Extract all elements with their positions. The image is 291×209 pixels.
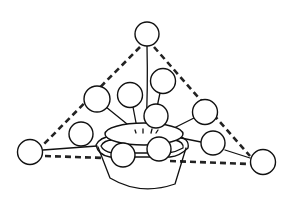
bloom-bowl-right xyxy=(147,137,171,161)
guide-base-left xyxy=(45,156,105,158)
bloom-center xyxy=(144,104,168,128)
bowl-foliage-mound xyxy=(105,123,183,145)
bloom-far-left xyxy=(18,140,43,165)
arrangement-diagram xyxy=(0,0,291,209)
bloom-right-lower xyxy=(201,131,225,155)
bloom-far-right xyxy=(251,150,276,175)
bloom-upper-right xyxy=(151,69,176,94)
bloom-bowl-left xyxy=(111,143,135,167)
bloom-left-upper xyxy=(84,86,110,112)
bowl xyxy=(96,123,188,189)
bloom-right xyxy=(193,100,218,125)
bloom-top xyxy=(135,22,159,46)
arrangement-svg xyxy=(0,0,291,209)
bloom-mid-left xyxy=(118,83,143,108)
stem-far-left xyxy=(43,146,97,150)
bloom-left-mid xyxy=(69,122,93,146)
stem-far-right xyxy=(225,150,250,158)
